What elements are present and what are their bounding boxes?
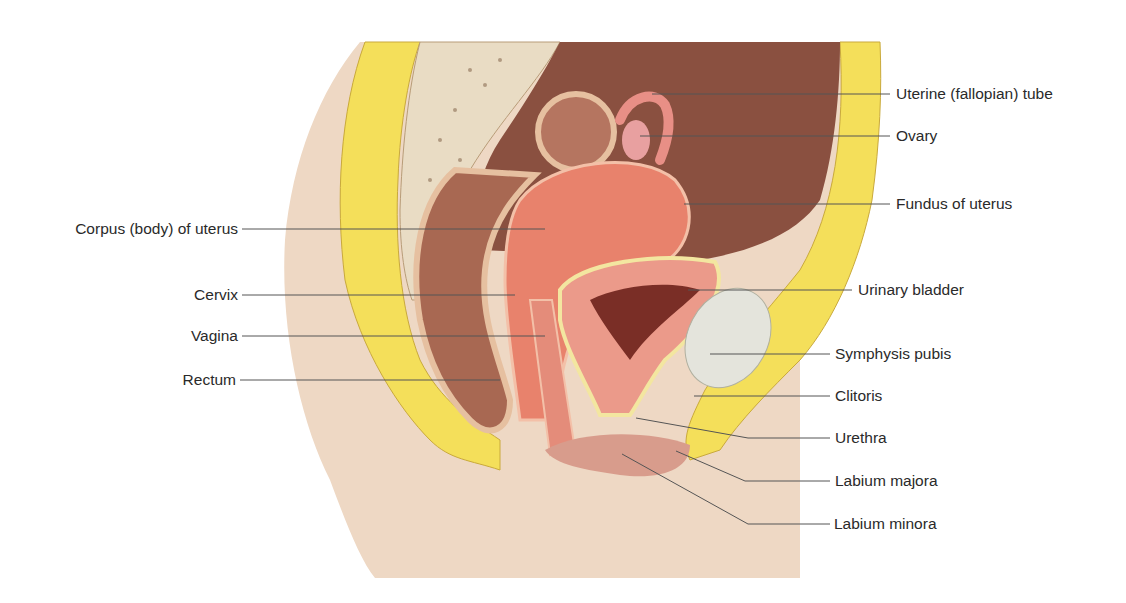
label-urethra: Urethra xyxy=(835,429,887,447)
label-urinary-bladder: Urinary bladder xyxy=(858,281,964,299)
label-vagina: Vagina xyxy=(191,327,238,345)
label-corpus-of-uterus: Corpus (body) of uterus xyxy=(75,220,238,238)
ovary-shape xyxy=(622,120,650,160)
label-cervix: Cervix xyxy=(194,286,238,304)
label-uterine-tube: Uterine (fallopian) tube xyxy=(896,85,1053,103)
label-ovary: Ovary xyxy=(896,127,937,145)
small-intestine-loop xyxy=(538,94,614,170)
label-clitoris: Clitoris xyxy=(835,387,882,405)
label-rectum: Rectum xyxy=(183,371,236,389)
label-labium-majora: Labium majora xyxy=(835,472,938,490)
label-fundus-of-uterus: Fundus of uterus xyxy=(896,195,1012,213)
label-labium-minora: Labium minora xyxy=(834,515,937,533)
label-symphysis-pubis: Symphysis pubis xyxy=(835,345,951,363)
